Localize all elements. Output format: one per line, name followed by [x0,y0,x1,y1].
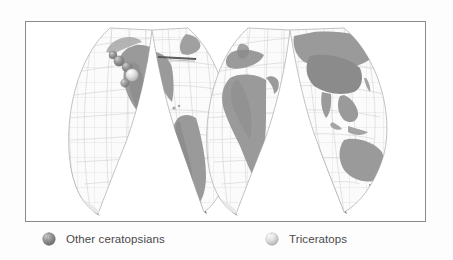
legend-swatch-triceratops-icon [265,232,279,246]
legend-item-other-ceratopsians: Other ceratopsians [42,226,165,252]
legend-item-triceratops: Triceratops [265,226,347,252]
map-legend: Other ceratopsians Triceratops [25,226,426,252]
legend-swatch-other-ceratopsians-icon [42,232,56,246]
gore-africa-europe [205,28,292,214]
distribution-map-figure: Other ceratopsians Triceratops [0,0,453,260]
map-frame [25,21,426,222]
legend-label-other-ceratopsians: Other ceratopsians [66,233,165,245]
marker-other-ceratopsians-utah [121,79,130,88]
world-map [26,22,425,221]
legend-label-triceratops: Triceratops [289,233,347,245]
gore-asia-australia [290,28,392,214]
